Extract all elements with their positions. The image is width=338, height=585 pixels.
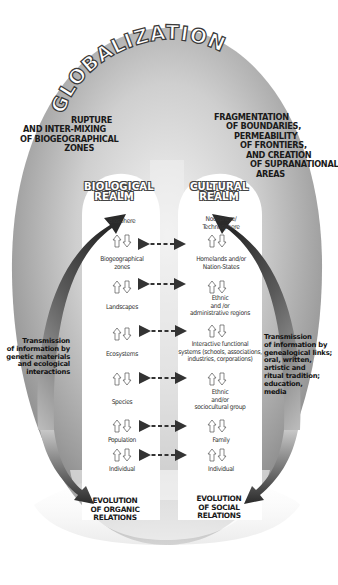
cult-node-ethnic-group: Ethnic and/or sociocultural group: [170, 389, 270, 412]
node-label: industries, corporations): [166, 356, 274, 364]
node-label: Species: [82, 399, 162, 407]
cult-node-noosphere: Noosphere/ Technosphere: [176, 216, 266, 231]
bio-node-ecosystems: Ecosystems: [82, 351, 162, 359]
bio-node-biosphere: Biosphere: [82, 218, 162, 226]
node-label: administrative regions: [170, 310, 270, 318]
node-label: Biosphere: [82, 218, 162, 226]
biological-heading-line-2: REALM: [84, 192, 144, 202]
cult-node-homelands: Homelands and/or Nation-States: [176, 256, 266, 271]
cult-node-functional-systems: Interactive functional systems (schools,…: [166, 341, 274, 364]
node-label: sociocultural group: [170, 404, 270, 412]
evolution-social-label: EVOLUTION OF SOCIAL RELATIONS: [194, 495, 244, 521]
cult-node-family: Family: [176, 437, 266, 445]
node-label: Individual: [82, 466, 162, 474]
rupture-line-4: ZONES: [20, 144, 116, 153]
fragmentation-label: FRAGMENTATION OF BOUNDARIES, PERMEABILIT…: [214, 113, 338, 179]
right-side-line: media: [264, 389, 332, 397]
fragmentation-line-7: AREAS: [214, 170, 338, 179]
node-label: Landscapes: [82, 304, 162, 312]
bio-node-population: Population: [82, 437, 162, 445]
bio-node-landscapes: Landscapes: [82, 304, 162, 312]
bio-node-biogeographical-zones: Biogeographical zones: [82, 256, 162, 271]
left-transmission-label: Transmission of information by genetic m…: [4, 338, 70, 377]
cult-node-ethnic-regions: Ethnic and /or administrative regions: [170, 295, 270, 318]
right-transmission-label: Transmission of information by genealogi…: [264, 334, 332, 397]
node-label: Nation-States: [176, 264, 266, 272]
rupture-label: RUPTURE AND INTER-MIXING OF BIOGEOGRAPHI…: [20, 116, 116, 154]
evolution-organic-label: EVOLUTION OF ORGANIC RELATIONS: [90, 497, 140, 523]
bio-node-individual: Individual: [82, 466, 162, 474]
node-label: Ecosystems: [82, 351, 162, 359]
node-label: Family: [176, 437, 266, 445]
bottom-left-line: RELATIONS: [90, 514, 140, 523]
left-side-line: interactions: [4, 369, 70, 377]
cultural-realm-heading: CULTURAL REALM: [190, 182, 248, 202]
bio-node-species: Species: [82, 399, 162, 407]
cultural-heading-line-2: REALM: [190, 192, 248, 202]
cult-node-individual: Individual: [176, 466, 266, 474]
node-label: Population: [82, 437, 162, 445]
node-label: Technosphere: [176, 224, 266, 232]
node-label: zones: [82, 264, 162, 272]
bottom-right-line: RELATIONS: [194, 512, 244, 521]
biological-realm-heading: BIOLOGICAL REALM: [84, 182, 144, 202]
node-label: Individual: [176, 466, 266, 474]
